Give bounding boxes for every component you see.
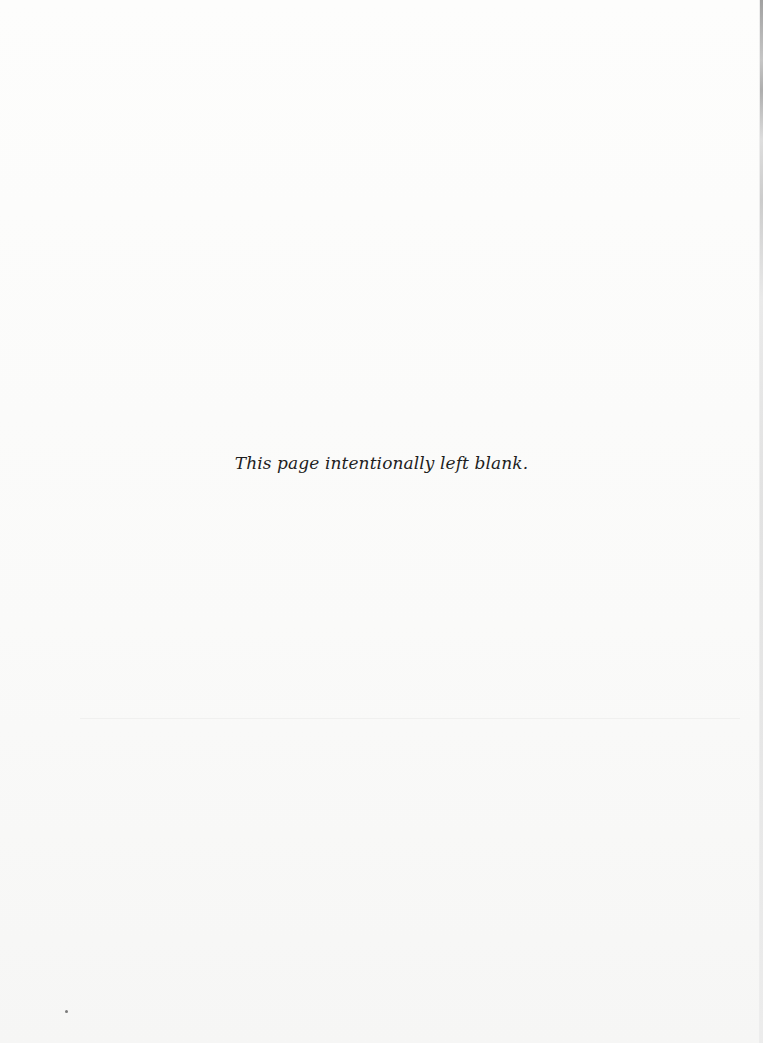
- scan-speck: [65, 1010, 68, 1013]
- document-page: This page intentionally left blank.: [0, 0, 763, 1043]
- blank-page-notice: This page intentionally left blank.: [0, 453, 763, 473]
- scan-artifact-rule: [80, 718, 740, 719]
